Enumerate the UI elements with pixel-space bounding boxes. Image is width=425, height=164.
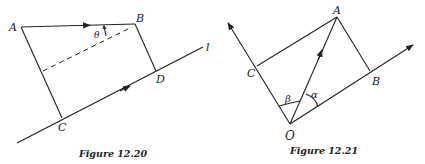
label-l: l <box>206 41 210 54</box>
diagram-canvas: A B D C l θ Figure 12.20 A C B O β α Fig… <box>0 0 425 164</box>
segment-ac <box>21 27 62 118</box>
axis-right <box>290 45 413 124</box>
figure-12-20: A B D C l θ Figure 12.20 <box>8 12 210 159</box>
dashed-line <box>43 27 132 71</box>
figure-12-21: A C B O β α Figure 12.21 <box>228 4 413 156</box>
label-o: O <box>285 129 295 143</box>
label-alpha: α <box>311 89 318 100</box>
label-a: A <box>8 21 17 34</box>
vector-oa <box>290 17 337 124</box>
segment-ab <box>337 17 370 71</box>
label-beta: β <box>284 93 291 104</box>
label-a: A <box>332 4 341 17</box>
segment-bd <box>135 24 156 71</box>
segment-ab <box>21 24 135 27</box>
label-b: B <box>371 75 380 88</box>
label-b: B <box>135 12 144 25</box>
label-c: C <box>247 67 256 80</box>
label-theta: θ <box>94 30 100 40</box>
label-c: C <box>58 121 67 134</box>
label-d: D <box>155 73 165 86</box>
arrow-oa-icon <box>318 50 322 60</box>
segment-ac <box>257 17 337 66</box>
line-l <box>17 47 203 143</box>
caption-figure-12-20: Figure 12.20 <box>78 148 147 159</box>
axis-left <box>228 23 290 124</box>
caption-figure-12-21: Figure 12.21 <box>289 145 358 156</box>
